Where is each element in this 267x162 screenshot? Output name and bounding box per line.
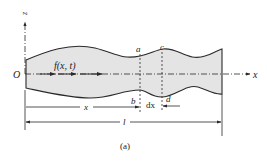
section-label-b: b <box>131 96 136 106</box>
bar-body <box>26 46 222 98</box>
figure-caption: (a) <box>120 141 130 151</box>
bar-vibration-diagram: z x O f(x, t) a c b d dx x l (a) <box>0 0 267 162</box>
x-axis-label: x <box>252 69 258 80</box>
origin-label: O <box>13 69 20 80</box>
l-dimension-label: l <box>123 117 126 127</box>
dx-label: dx <box>146 100 156 110</box>
x-dimension-label: x <box>83 102 88 112</box>
force-label: f(x, t) <box>54 60 76 72</box>
z-axis-label: z <box>20 11 29 16</box>
section-label-d: d <box>166 94 171 104</box>
section-label-c: c <box>160 42 164 52</box>
section-label-a: a <box>136 44 141 54</box>
